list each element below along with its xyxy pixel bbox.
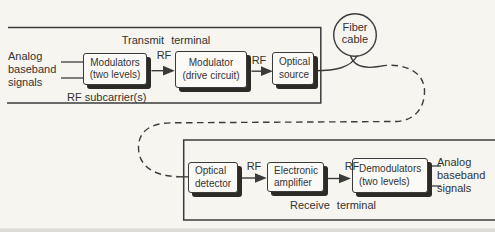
optical-detector-box-line1: Optical [195,165,237,178]
rf-subcarrier-label: RF subcarrier(s) [67,91,146,104]
rf-arrow-4-head [339,174,351,184]
demodulators-box: Demodulators (two levels) [352,158,428,193]
analog-output-line2: baseband [437,169,485,182]
analog-input-label: Analog baseband signals [8,50,56,88]
fiber-optic-link-diagram: Transmit terminal Analog baseband signal… [0,0,495,232]
drive-modulator-box-line1: Modulator [189,57,233,70]
optical-source-box-line2: source [279,69,313,82]
electronic-amplifier-box-line1: Electronic [274,165,323,178]
transmit-terminal-title: Transmit terminal [118,34,214,47]
rf-label-4: RF [341,160,363,173]
optical-source-box-line1: Optical [279,56,313,69]
analog-input-line3: signals [8,76,56,89]
analog-output-label: Analog baseband signals [437,156,485,194]
drive-modulator-box-line2: (drive circuit) [182,70,239,83]
fiber-cable-line2: cable [331,34,379,46]
analog-input-line2: baseband [8,63,56,76]
rf-arrow-3-head [255,173,267,183]
analog-input-line1: Analog [8,50,56,63]
modulators-box-line2: (two levels) [90,69,141,82]
modulators-box: Modulators (two levels) [83,53,147,85]
fiber-cable-line1: Fiber [331,22,379,34]
demodulators-box-line2: (two levels) [359,176,427,189]
drive-modulator-box: Modulator (drive circuit) [175,51,247,88]
optical-detector-box-line2: detector [195,178,237,191]
fiber-line-out [351,56,381,67]
scan-edge [0,229,495,233]
analog-output-line3: signals [437,182,485,195]
optical-detector-box: Optical detector [188,162,238,193]
rf-label-1: RF [153,49,175,62]
electronic-amplifier-box: Electronic amplifier [267,162,324,192]
diagram-wires [0,0,495,232]
analog-output-line1: Analog [437,156,485,169]
rf-label-3: RF [243,160,265,173]
modulators-box-line1: Modulators [90,57,139,70]
demodulators-box-line1: Demodulators [359,163,427,176]
receive-terminal-title: Receive terminal [283,199,383,212]
rf-label-2: RF [248,54,270,67]
fiber-cable-label: Fiber cable [331,22,379,45]
optical-source-box: Optical source [272,52,314,85]
rf-arrow-1-head [163,66,175,76]
electronic-amplifier-box-line2: amplifier [274,177,323,190]
